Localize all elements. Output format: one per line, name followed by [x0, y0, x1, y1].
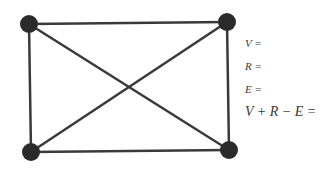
- vertex-top-left: [20, 15, 38, 33]
- edge-bottom: [31, 150, 229, 152]
- vertex-top-right: [218, 13, 236, 31]
- graph-diagram: [0, 0, 327, 169]
- edge-right: [227, 22, 229, 150]
- vertex-bottom-left: [22, 143, 40, 161]
- vertices-label: V =: [245, 37, 262, 49]
- graph-edges: [29, 22, 229, 152]
- vertex-bottom-right: [220, 141, 238, 159]
- regions-label: R =: [245, 60, 262, 72]
- edge-left: [29, 24, 31, 152]
- edge-diagonal-tr-bl: [31, 22, 227, 152]
- euler-formula-label: V + R − E =: [245, 104, 316, 120]
- edge-top: [29, 22, 227, 24]
- edges-label: E =: [245, 83, 262, 95]
